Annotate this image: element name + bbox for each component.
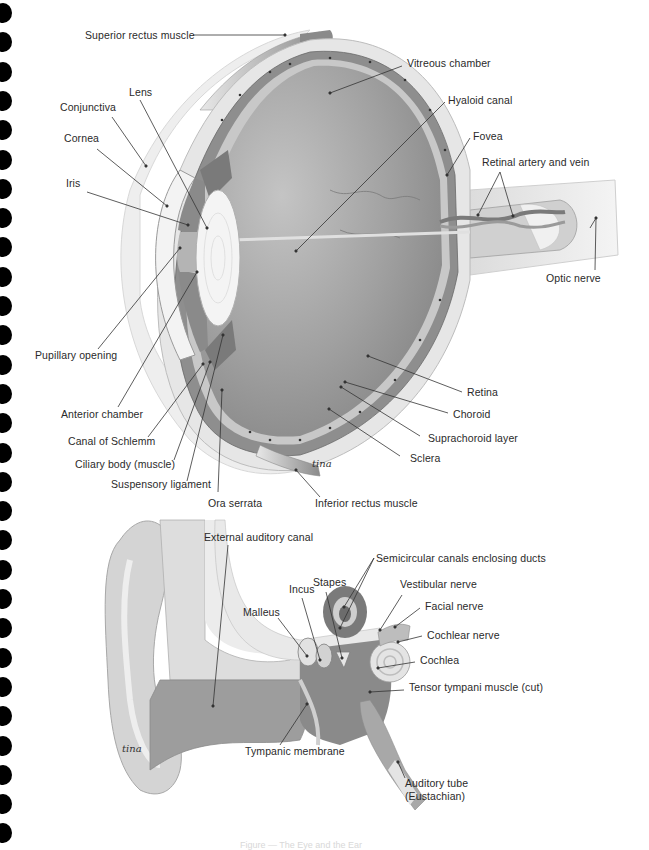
label-auditory-tube: Auditory tube: [405, 777, 468, 789]
artist-signature-eye: tina: [312, 458, 332, 469]
label-tympanic-membrane: Tympanic membrane: [245, 745, 345, 757]
binding-hole: [0, 618, 12, 638]
label-sclera: Sclera: [410, 452, 440, 464]
label-fovea: Fovea: [473, 130, 503, 142]
binding-hole: [0, 560, 12, 580]
label-hyaloid-canal: Hyaloid canal: [448, 94, 512, 106]
binding-hole: [0, 677, 12, 697]
label-suprachoroid-layer: Suprachoroid layer: [428, 432, 518, 444]
label-eustachian: (Eustachian): [405, 790, 465, 802]
label-vestibular-nerve: Vestibular nerve: [400, 578, 477, 590]
label-malleus: Malleus: [243, 606, 280, 618]
binding-hole: [0, 589, 12, 609]
binding-hole: [0, 648, 12, 668]
label-inferior-rectus-muscle: Inferior rectus muscle: [315, 497, 418, 509]
label-choroid: Choroid: [453, 408, 490, 420]
label-tensor-tympani-muscle: Tensor tympani muscle (cut): [409, 681, 543, 693]
figure-caption: Figure — The Eye and the Ear: [240, 840, 362, 850]
label-canal-of-schlemm: Canal of Schlemm: [68, 435, 155, 447]
label-stapes: Stapes: [313, 576, 346, 588]
binding-hole: [0, 706, 12, 726]
label-ciliary-body: Ciliary body (muscle): [75, 458, 175, 470]
label-vitreous-chamber: Vitreous chamber: [407, 57, 491, 69]
label-incus: Incus: [289, 583, 315, 595]
label-external-auditory-canal: External auditory canal: [204, 531, 313, 543]
label-conjunctiva: Conjunctiva: [60, 101, 116, 113]
label-cornea: Cornea: [64, 132, 99, 144]
label-anterior-chamber: Anterior chamber: [61, 408, 143, 420]
binding-hole: [0, 530, 12, 550]
binding-hole: [0, 794, 12, 814]
binding-hole: [0, 736, 12, 756]
label-facial-nerve: Facial nerve: [425, 600, 483, 612]
label-cochlea: Cochlea: [420, 654, 459, 666]
label-suspensory-ligament: Suspensory ligament: [111, 478, 211, 490]
label-lens: Lens: [129, 86, 152, 98]
label-ora-serrata: Ora serrata: [208, 497, 262, 509]
label-semicircular-canals: Semicircular canals enclosing ducts: [376, 552, 546, 564]
binding-hole: [0, 823, 12, 843]
label-retina: Retina: [467, 386, 498, 398]
label-cochlear-nerve: Cochlear nerve: [427, 629, 500, 641]
artist-signature-ear: tina: [122, 743, 142, 754]
label-pupillary-opening: Pupillary opening: [35, 349, 117, 361]
label-superior-rectus-muscle: Superior rectus muscle: [85, 29, 195, 41]
label-optic-nerve: Optic nerve: [546, 272, 601, 284]
binding-hole: [0, 765, 12, 785]
label-iris: Iris: [66, 177, 80, 189]
label-retinal-artery-and-vein: Retinal artery and vein: [482, 156, 589, 168]
